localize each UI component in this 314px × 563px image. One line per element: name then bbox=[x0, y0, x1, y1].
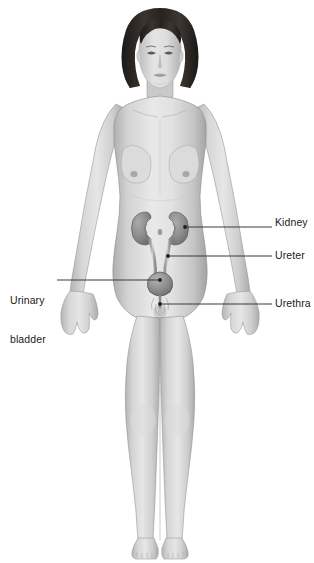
leader-dot-ureter bbox=[166, 254, 170, 258]
perineum-shade bbox=[154, 305, 167, 319]
anatomy-illustration: Kidney Ureter Urethra Urinary bladder bbox=[0, 0, 314, 563]
nipple-right bbox=[182, 171, 189, 177]
body-diagram bbox=[0, 0, 314, 563]
right-foot bbox=[162, 538, 188, 559]
left-foot bbox=[132, 538, 158, 559]
navel bbox=[158, 229, 163, 235]
knee-right bbox=[164, 404, 190, 436]
leader-dot-bladder bbox=[158, 278, 162, 282]
label-urinary-bladder: Urinary bladder bbox=[10, 268, 46, 372]
left-hand bbox=[61, 291, 98, 335]
leader-dot-kidney bbox=[183, 225, 187, 229]
nipple-left bbox=[130, 171, 137, 177]
label-urethra: Urethra bbox=[275, 297, 311, 310]
label-ureter: Ureter bbox=[275, 249, 305, 262]
urinary-bladder bbox=[147, 272, 172, 296]
leader-dot-urethra bbox=[158, 302, 162, 306]
label-urinary-bladder-line1: Urinary bbox=[10, 294, 46, 307]
right-hand bbox=[222, 291, 259, 335]
label-urinary-bladder-line2: bladder bbox=[10, 333, 46, 346]
label-kidney: Kidney bbox=[275, 216, 308, 229]
knee-left bbox=[130, 404, 156, 436]
